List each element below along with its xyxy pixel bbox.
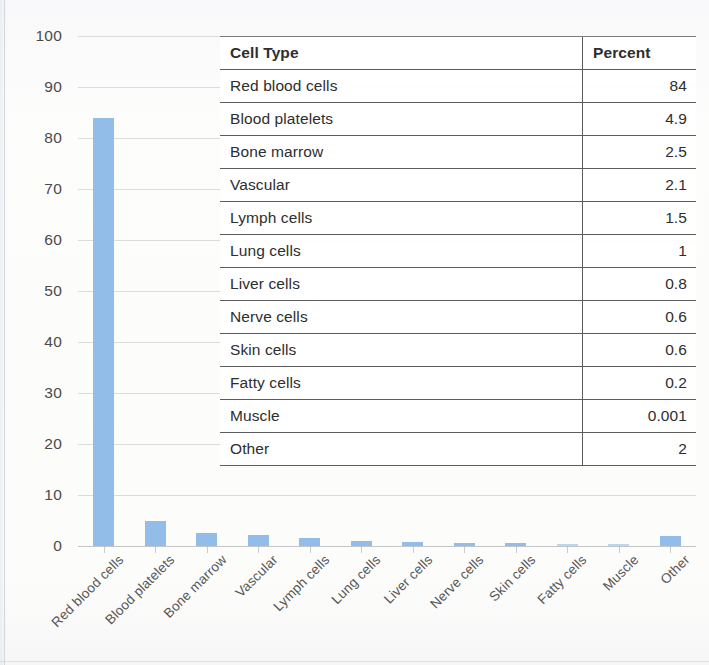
cell-type-value: Nerve cells — [220, 301, 583, 334]
x-axis-category-label: Nerve cells — [427, 552, 486, 611]
y-axis-tick-label: 60 — [44, 231, 62, 249]
column-header-percent: Percent — [583, 37, 697, 70]
x-axis-category-label: Liver cells — [381, 552, 436, 607]
cell-type-value: Lung cells — [220, 235, 583, 268]
y-axis-tick-label: 70 — [44, 180, 62, 198]
percent-value: 2.5 — [583, 136, 697, 169]
table-row: Lung cells1 — [220, 235, 696, 268]
column-header-cell-type: Cell Type — [220, 37, 583, 70]
percent-value: 0.6 — [583, 301, 697, 334]
cell-type-value: Liver cells — [220, 268, 583, 301]
table-row: Skin cells0.6 — [220, 334, 696, 367]
table-header-row: Cell Type Percent — [220, 37, 696, 70]
table-row: Bone marrow2.5 — [220, 136, 696, 169]
percent-value: 84 — [583, 70, 697, 103]
percent-value: 0.001 — [583, 400, 697, 433]
bar — [248, 535, 269, 546]
percent-value: 2.1 — [583, 169, 697, 202]
table-row: Other2 — [220, 433, 696, 466]
y-axis-tick-label: 30 — [44, 384, 62, 402]
bar — [145, 521, 166, 546]
x-axis-category-labels: Red blood cellsBlood plateletsBone marro… — [78, 552, 696, 652]
cell-type-value: Bone marrow — [220, 136, 583, 169]
y-axis-tick-label: 80 — [44, 129, 62, 147]
x-axis-category-label: Skin cells — [486, 552, 538, 604]
cell-type-value: Vascular — [220, 169, 583, 202]
percent-value: 1 — [583, 235, 697, 268]
x-axis-category-label: Vascular — [233, 552, 281, 600]
percent-value: 2 — [583, 433, 697, 466]
bar — [299, 538, 320, 546]
y-axis-tick-labels: 0102030405060708090100 — [0, 36, 70, 546]
percent-value: 0.6 — [583, 334, 697, 367]
cell-type-value: Red blood cells — [220, 70, 583, 103]
cell-type-value: Lymph cells — [220, 202, 583, 235]
table-row: Muscle0.001 — [220, 400, 696, 433]
y-axis-tick-label: 40 — [44, 333, 62, 351]
table-row: Blood platelets4.9 — [220, 103, 696, 136]
table-row: Fatty cells0.2 — [220, 367, 696, 400]
x-axis-category-label: Fatty cells — [535, 552, 590, 607]
y-axis-tick-label: 90 — [44, 78, 62, 96]
table-body: Red blood cells84Blood platelets4.9Bone … — [220, 70, 696, 466]
percent-value: 0.8 — [583, 268, 697, 301]
cell-type-value: Other — [220, 433, 583, 466]
y-axis-tick-label: 100 — [36, 27, 62, 45]
percent-value: 0.2 — [583, 367, 697, 400]
data-table: Cell Type Percent Red blood cells84Blood… — [220, 36, 696, 466]
table-row: Vascular2.1 — [220, 169, 696, 202]
cell-type-value: Blood platelets — [220, 103, 583, 136]
table-row: Red blood cells84 — [220, 70, 696, 103]
table-row: Lymph cells1.5 — [220, 202, 696, 235]
bar — [660, 536, 681, 546]
gridline — [78, 495, 696, 496]
axis-baseline — [78, 546, 696, 547]
cell-type-value: Fatty cells — [220, 367, 583, 400]
cell-type-value: Skin cells — [220, 334, 583, 367]
y-axis-tick-label: 10 — [44, 486, 62, 504]
x-axis-category-label: Muscle — [600, 552, 642, 594]
y-axis-tick-label: 50 — [44, 282, 62, 300]
x-axis-category-label: Lung cells — [329, 552, 384, 607]
table-row: Nerve cells0.6 — [220, 301, 696, 334]
percent-value: 4.9 — [583, 103, 697, 136]
bar-chart: 0102030405060708090100 Red blood cellsBl… — [0, 0, 709, 665]
bar — [196, 533, 217, 546]
bar — [93, 118, 114, 546]
y-axis-tick-label: 0 — [53, 537, 62, 555]
y-axis-tick-label: 20 — [44, 435, 62, 453]
cell-type-value: Muscle — [220, 400, 583, 433]
x-axis-category-label: Other — [658, 552, 693, 587]
table-row: Liver cells0.8 — [220, 268, 696, 301]
percent-value: 1.5 — [583, 202, 697, 235]
